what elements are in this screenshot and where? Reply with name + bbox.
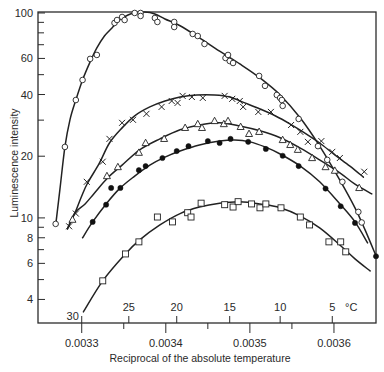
open-square-marker-icon [154,214,160,220]
open-circle-marker-icon [202,41,208,47]
filled-circle-marker-icon [217,140,222,145]
open-circle-marker-icon [296,116,302,122]
open-triangle-marker-icon [225,117,232,123]
open-circle-marker-icon [53,221,59,227]
cross-marker-icon [361,169,367,175]
y-tick-label: 100 [15,7,33,19]
open-circle-marker-icon [280,103,286,109]
open-circle-marker-icon [315,143,321,149]
series-open-squares [100,199,349,284]
open-circle-marker-icon [80,77,86,83]
open-triangle-marker-icon [246,130,253,136]
open-circle-marker-icon [262,83,268,89]
open-triangle-marker-icon [194,120,201,126]
filled-circle-marker-icon [352,220,357,225]
y-axis-title: Luminescence intensity [8,108,20,218]
filled-circle-marker-icon [373,254,378,259]
y-tick-label: 20 [21,150,33,162]
x-axis-title: Reciprocal of the absolute temperature [110,352,291,364]
filled-circle-marker-icon [246,139,251,144]
x-tick-label: 0.0035 [233,337,267,349]
cross-marker-icon [255,109,261,115]
open-circle-marker-icon [171,24,177,30]
y-tick-label: 8 [27,232,33,244]
filled-circle-marker-icon [296,163,301,168]
open-circle-marker-icon [132,10,138,16]
filled-circle-marker-icon [263,146,268,151]
open-circle-marker-icon [324,157,330,163]
open-circle-marker-icon [195,33,201,39]
open-circle-marker-icon [356,209,362,215]
celsius-tick-label: 15 [224,301,236,313]
open-triangle-marker-icon [211,117,218,123]
y-tick-label: 4 [27,293,33,305]
open-square-marker-icon [235,199,241,205]
open-triangle-marker-icon [294,146,301,152]
filled-circle-marker-icon [109,185,114,190]
open-square-marker-icon [278,205,284,211]
open-square-marker-icon [188,214,194,220]
filled-circle-marker-icon [118,185,123,190]
y-tick-label: 10 [21,212,33,224]
open-circle-marker-icon [94,52,100,58]
filled-circle-marker-icon [143,163,148,168]
celsius-tick-label: 20 [171,301,183,313]
open-circle-marker-icon [87,56,93,62]
celsius-tick-label: 30 [67,310,79,322]
filled-circle-marker-icon [104,202,109,207]
open-circle-marker-icon [359,220,365,226]
filled-circle-marker-icon [174,148,179,153]
celsius-tick-label: 25 [123,301,135,313]
curve-crosses [67,95,363,229]
filled-circle-marker-icon [338,204,343,209]
open-circle-marker-icon [230,60,236,66]
open-square-marker-icon [338,239,344,245]
cross-marker-icon [175,100,181,106]
open-square-marker-icon [263,201,269,207]
open-square-marker-icon [343,249,349,255]
luminescence-vs-reciprocal-temperature-chart: 468102040601000.00330.00340.00350.003630… [0,0,384,372]
y-tick-label: 60 [21,52,33,64]
open-circle-marker-icon [73,97,79,103]
open-square-marker-icon [307,222,313,228]
cross-marker-icon [200,95,206,101]
open-square-marker-icon [222,202,228,208]
open-square-marker-icon [136,239,142,245]
filled-circle-marker-icon [90,219,95,224]
chart-figure: 468102040601000.00330.00340.00350.003630… [0,0,384,372]
filled-circle-marker-icon [160,155,165,160]
open-circle-marker-icon [256,73,262,79]
open-circle-marker-icon [62,144,68,150]
x-tick-label: 0.0033 [65,337,99,349]
cross-marker-icon [119,120,125,126]
open-square-marker-icon [326,239,332,245]
celsius-tick-label: 10 [274,301,286,313]
open-circle-marker-icon [138,13,144,19]
series-open-triangles [69,117,363,222]
x-tick-label: 0.0036 [317,337,351,349]
open-square-marker-icon [297,214,303,220]
cross-marker-icon [143,111,149,117]
open-triangle-marker-icon [142,139,149,145]
x-tick-label: 0.0034 [149,337,183,349]
open-square-marker-icon [100,278,106,284]
open-circle-marker-icon [155,19,161,25]
data-markers [53,10,379,284]
filled-circle-marker-icon [323,186,328,191]
open-circle-marker-icon [279,97,285,103]
open-circle-marker-icon [340,179,346,185]
y-tick-label: 40 [21,89,33,101]
open-square-marker-icon [170,219,176,225]
curve-open-circles [56,12,376,256]
celsius-tick-label: 5 [329,301,335,313]
open-square-marker-icon [122,251,128,257]
cross-marker-icon [305,139,311,145]
open-square-marker-icon [198,200,204,206]
open-circle-marker-icon [114,17,120,23]
open-triangle-marker-icon [69,216,76,222]
celsius-unit-label: °C [345,301,357,313]
open-square-marker-icon [257,205,263,211]
open-circle-marker-icon [122,17,128,23]
open-circle-marker-icon [225,52,231,58]
filled-circle-marker-icon [205,139,210,144]
